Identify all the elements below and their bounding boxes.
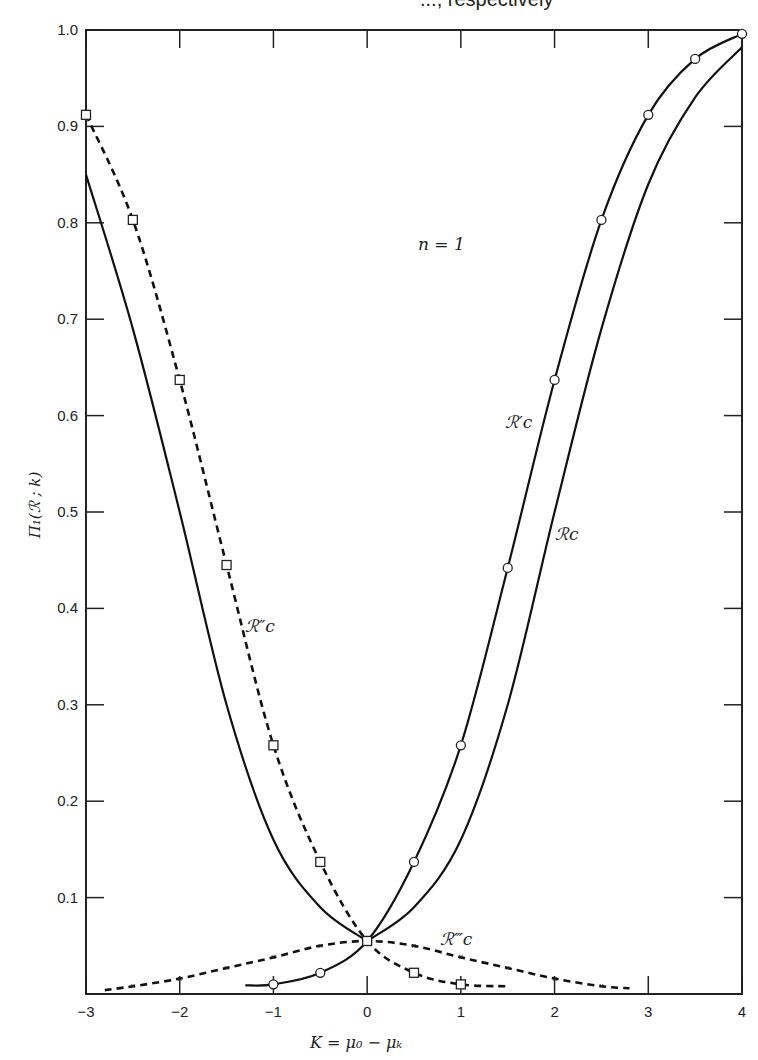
y-tick-label: 0.8 xyxy=(57,214,78,231)
x-tick-label: 4 xyxy=(738,1003,746,1020)
curves xyxy=(86,34,742,990)
x-marker: × xyxy=(271,952,276,962)
circle-marker xyxy=(456,741,465,750)
circle-marker xyxy=(597,215,606,224)
plot-frame xyxy=(86,30,742,994)
circle-marker xyxy=(644,110,653,119)
square-marker xyxy=(175,375,184,384)
plot-border xyxy=(86,30,742,994)
x-marker: × xyxy=(130,981,135,991)
circle-marker xyxy=(503,563,512,572)
circle-marker xyxy=(691,54,700,63)
circle-marker xyxy=(410,857,419,866)
circle-marker xyxy=(550,375,559,384)
square-marker xyxy=(363,936,372,945)
x-tick-label: −2 xyxy=(171,1003,188,1020)
chart-canvas: 0.10.20.30.40.50.60.70.80.91.0−3−2−10123… xyxy=(0,0,758,1060)
circle-marker xyxy=(738,29,747,38)
axis-ticks: 0.10.20.30.40.50.60.70.80.91.0−3−2−10123… xyxy=(57,21,746,1020)
y-tick-label: 0.4 xyxy=(57,599,78,616)
square-marker xyxy=(456,980,465,989)
label-rc-double-prime: ℛ″c xyxy=(245,616,275,636)
curve-2 xyxy=(86,175,367,941)
x-marker: × xyxy=(505,963,510,973)
x-tick-label: 3 xyxy=(644,1003,652,1020)
label-rc: ℛc xyxy=(555,524,579,544)
y-tick-label: 0.9 xyxy=(57,117,78,134)
curve-1 xyxy=(367,47,742,941)
square-marker xyxy=(410,968,419,977)
y-axis-label: Π₁(ℛ ; k) xyxy=(26,472,44,540)
y-tick-label: 0.7 xyxy=(57,310,78,327)
label-rc-triple-prime: ℛ‴c xyxy=(440,929,473,949)
x-tick-label: 1 xyxy=(457,1003,465,1020)
y-tick-label: 0.1 xyxy=(57,889,78,906)
x-tick-label: 2 xyxy=(550,1003,558,1020)
y-tick-label: 0.6 xyxy=(57,407,78,424)
square-marker xyxy=(82,110,91,119)
y-tick-label: 0.3 xyxy=(57,696,78,713)
x-marker: × xyxy=(224,963,229,973)
y-tick-label: 0.2 xyxy=(57,792,78,809)
markers: ×××××××××× xyxy=(82,29,747,991)
square-marker xyxy=(128,215,137,224)
x-marker: × xyxy=(552,974,557,984)
square-marker xyxy=(316,857,325,866)
x-tick-label: −1 xyxy=(265,1003,282,1020)
square-marker xyxy=(222,561,231,570)
x-axis-label: K = μ₀ − μₖ xyxy=(309,1033,402,1052)
curve-0 xyxy=(245,34,742,986)
x-marker: × xyxy=(599,981,604,991)
x-tick-label: −3 xyxy=(77,1003,94,1020)
x-marker: × xyxy=(177,974,182,984)
circle-marker xyxy=(269,980,278,989)
x-tick-label: 0 xyxy=(363,1003,371,1020)
circle-marker xyxy=(316,968,325,977)
x-marker: × xyxy=(458,952,463,962)
label-rc-prime: ℛ′c xyxy=(505,412,533,432)
x-marker: × xyxy=(411,941,416,951)
x-marker: × xyxy=(318,941,323,951)
y-tick-label: 1.0 xyxy=(57,21,78,38)
n-annotation: n = 1 xyxy=(418,234,465,254)
square-marker xyxy=(269,741,278,750)
y-tick-label: 0.5 xyxy=(57,503,78,520)
